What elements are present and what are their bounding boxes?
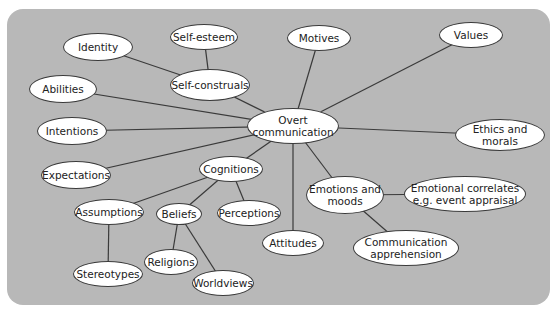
node-label: Worldviews [193,277,253,289]
node-label: Abilities [42,83,84,95]
node-label: Beliefs [161,208,196,220]
node-intentions[interactable]: Intentions [37,117,107,145]
node-label: Identity [78,41,118,53]
node-ethics[interactable]: Ethics and morals [455,119,545,151]
node-label: Expectations [42,169,110,181]
node-label: Perceptions [219,207,280,219]
node-identity[interactable]: Identity [63,33,133,61]
node-label: Attitudes [269,237,317,249]
node-expectations[interactable]: Expectations [41,161,111,189]
node-label: Self-construals [171,79,248,91]
node-label: Overt communication [252,114,333,138]
node-attitudes[interactable]: Attitudes [262,230,324,256]
node-selfconstruals[interactable]: Self-construals [170,69,250,101]
node-overt[interactable]: Overt communication [247,108,339,144]
node-assumptions[interactable]: Assumptions [74,199,144,225]
node-perceptions[interactable]: Perceptions [217,200,281,226]
node-selfesteem[interactable]: Self-esteem [170,24,238,50]
node-label: Stereotypes [76,268,139,280]
node-beliefs[interactable]: Beliefs [156,203,202,225]
node-label: Motives [299,32,340,44]
node-label: Values [454,29,488,41]
node-label: Emotions and moods [309,183,381,207]
node-label: Ethics and morals [456,123,544,147]
node-worldviews[interactable]: Worldviews [192,270,254,296]
node-label: Emotional correlates e.g. event appraisa… [411,182,519,206]
node-commapprehension[interactable]: Communication apprehension [353,230,459,266]
node-label: Assumptions [75,206,142,218]
node-emocorrelates[interactable]: Emotional correlates e.g. event appraisa… [404,176,526,212]
node-cognitions[interactable]: Cognitions [199,156,263,182]
node-motives[interactable]: Motives [287,25,351,51]
node-label: Communication apprehension [365,236,448,260]
node-label: Religions [147,256,194,268]
node-label: Cognitions [203,163,259,175]
node-emotions[interactable]: Emotions and moods [306,176,384,214]
node-religions[interactable]: Religions [144,249,198,275]
node-label: Intentions [46,125,99,137]
node-values[interactable]: Values [439,22,503,48]
node-label: Self-esteem [173,31,235,43]
node-stereotypes[interactable]: Stereotypes [73,261,143,287]
node-abilities[interactable]: Abilities [29,75,97,103]
